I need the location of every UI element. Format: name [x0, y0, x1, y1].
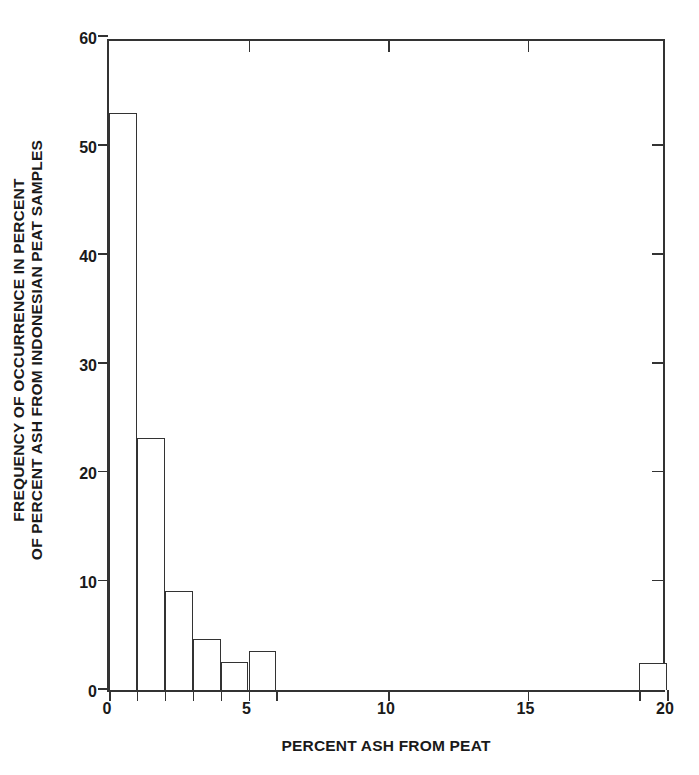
y-axis-title: FREQUENCY OF OCCURRENCE IN PERCENT OF PE…: [0, 0, 56, 700]
x-axis-tick-label: 0: [103, 700, 112, 718]
y-axis-title-line-1: FREQUENCY OF OCCURRENCE IN PERCENT: [10, 178, 28, 521]
y-axis-tick-left: [98, 362, 108, 364]
plot-area: [107, 39, 665, 692]
y-axis-tick-label: 30: [79, 357, 97, 375]
x-axis-tick-top: [388, 41, 390, 52]
y-axis-tick-right: [652, 144, 663, 146]
y-axis-title-line-2: OF PERCENT ASH FROM INDONESIAN PEAT SAMP…: [28, 140, 46, 560]
x-axis-tick-labels: 05101520: [107, 700, 665, 726]
y-axis-tick-labels: 0102030405060: [55, 39, 97, 692]
y-axis-tick-label: 60: [79, 30, 97, 48]
chart-figure: FREQUENCY OF OCCURRENCE IN PERCENT OF PE…: [0, 0, 699, 775]
histogram-bar: [137, 438, 165, 690]
y-axis-tick-left: [98, 580, 108, 582]
y-axis-tick-right: [652, 253, 663, 255]
x-axis-tick-label: 20: [656, 700, 674, 718]
x-axis-title: PERCENT ASH FROM PEAT: [107, 737, 665, 755]
y-axis-tick-label: 10: [79, 574, 97, 592]
histogram-bar: [221, 662, 249, 690]
histogram-bar: [165, 591, 193, 690]
y-axis-tick-right: [652, 362, 663, 364]
x-axis-tick-label: 5: [242, 700, 251, 718]
y-axis-tick-label: 0: [88, 683, 97, 701]
x-axis-tick-top: [528, 41, 530, 52]
y-axis-tick-left: [98, 688, 108, 690]
histogram-bar: [249, 651, 277, 690]
histogram-bar: [193, 639, 221, 690]
y-axis-tick-left: [98, 144, 108, 146]
x-axis-tick-top: [249, 41, 251, 52]
histogram-bar: [109, 113, 137, 690]
y-axis-tick-label: 50: [79, 139, 97, 157]
histogram-bar: [639, 663, 667, 690]
y-axis-tick-left: [98, 471, 108, 473]
y-axis-tick-right: [652, 471, 663, 473]
y-axis-tick-right: [652, 580, 663, 582]
y-axis-tick-label: 20: [79, 465, 97, 483]
y-axis-tick-label: 40: [79, 248, 97, 266]
x-axis-tick-label: 15: [517, 700, 535, 718]
y-axis-tick-left: [98, 35, 108, 37]
y-axis-tick-left: [98, 253, 108, 255]
x-axis-tick-label: 10: [377, 700, 395, 718]
